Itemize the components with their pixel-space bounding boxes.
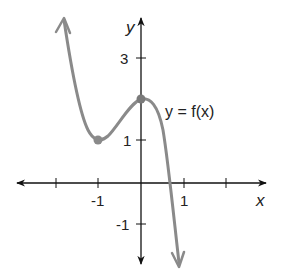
function-graph: -1 1 3 1 -1 y x y = f(x): [0, 0, 283, 279]
y-axis-label: y: [125, 18, 136, 37]
local-min-point: [94, 136, 103, 145]
curve-arrow-up-icon: [56, 18, 70, 33]
x-tick-label-neg1: -1: [91, 192, 104, 209]
y-tick-label-1: 1: [123, 132, 131, 149]
y-tick-label-neg1: -1: [116, 216, 129, 233]
curve-label: y = f(x): [165, 103, 214, 120]
x-axis-label: x: [255, 191, 265, 210]
x-tick-label-1: 1: [180, 192, 188, 209]
local-max-point: [137, 95, 146, 104]
y-tick-label-3: 3: [120, 50, 128, 67]
